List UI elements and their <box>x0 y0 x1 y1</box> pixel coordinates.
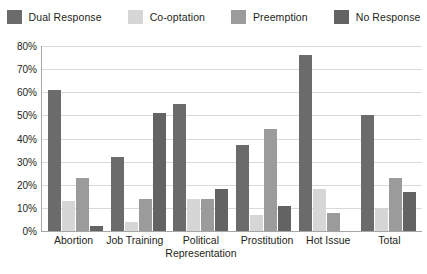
x-axis-category-label-line: Hot Issue <box>298 234 359 247</box>
legend-swatch-icon <box>128 10 143 24</box>
x-axis-category-label: Total <box>359 234 420 260</box>
y-axis-tick-label: 60% <box>17 87 37 98</box>
legend-swatch-icon <box>231 10 246 24</box>
x-axis-category-label-line: Job Training <box>104 234 165 247</box>
bar-group <box>232 46 295 231</box>
bar[interactable] <box>62 201 75 231</box>
bar-group <box>107 46 170 231</box>
bar[interactable] <box>90 226 103 231</box>
x-axis-category-label: PoliticalRepresentation <box>165 234 236 260</box>
bar[interactable] <box>48 90 61 231</box>
y-axis-tick-label: 0% <box>23 226 37 237</box>
x-axis-category-label: Abortion <box>43 234 104 260</box>
bar[interactable] <box>187 199 200 231</box>
chart-legend: Dual ResponseCo-optationPreemptionNo Res… <box>0 10 427 24</box>
bar[interactable] <box>153 113 166 231</box>
bar-group <box>357 46 420 231</box>
bar[interactable] <box>125 222 138 231</box>
bar[interactable] <box>215 189 228 231</box>
y-axis-tick-label: 30% <box>17 156 37 167</box>
bar[interactable] <box>361 115 374 231</box>
bar[interactable] <box>299 55 312 231</box>
legend-label: Preemption <box>253 11 308 23</box>
bar[interactable] <box>111 157 124 231</box>
y-axis-tick-label: 10% <box>17 202 37 213</box>
legend-label: Co-optation <box>150 11 205 23</box>
bar[interactable] <box>375 208 388 231</box>
x-axis-category-label-line: Total <box>359 234 420 247</box>
x-axis-category-label-line: Representation <box>165 247 236 260</box>
bar-chart: Dual ResponseCo-optationPreemptionNo Res… <box>0 0 427 274</box>
bar[interactable] <box>403 192 416 231</box>
bar[interactable] <box>139 199 152 231</box>
x-axis-category-label: Hot Issue <box>298 234 359 260</box>
y-axis-tick-label: 50% <box>17 110 37 121</box>
bar[interactable] <box>76 178 89 231</box>
y-axis-tick-label: 40% <box>17 133 37 144</box>
legend-label: Dual Response <box>29 11 102 23</box>
x-axis-category-label: Job Training <box>104 234 165 260</box>
bar-group <box>169 46 232 231</box>
x-axis-category-label-line: Abortion <box>43 234 104 247</box>
bar[interactable] <box>313 189 326 231</box>
x-axis-category-label-line: Political <box>165 234 236 247</box>
legend-item[interactable]: Co-optation <box>128 10 205 24</box>
bar[interactable] <box>236 145 249 231</box>
bar-group <box>295 46 358 231</box>
legend-item[interactable]: Preemption <box>231 10 308 24</box>
bar[interactable] <box>250 215 263 231</box>
bar[interactable] <box>327 213 340 232</box>
legend-swatch-icon <box>334 10 349 24</box>
legend-item[interactable]: Dual Response <box>7 10 102 24</box>
bar-groups <box>42 46 422 231</box>
legend-label: No Response <box>356 11 421 23</box>
x-axis-category-label: Prostitution <box>237 234 298 260</box>
legend-swatch-icon <box>7 10 22 24</box>
y-axis-tick-label: 70% <box>17 64 37 75</box>
y-axis-tick-label: 80% <box>17 41 37 52</box>
bar[interactable] <box>201 199 214 231</box>
bar[interactable] <box>389 178 402 231</box>
x-axis-category-labels: AbortionJob TrainingPoliticalRepresentat… <box>41 234 422 260</box>
bar[interactable] <box>278 206 291 231</box>
bar[interactable] <box>264 129 277 231</box>
y-axis-tick-label: 20% <box>17 179 37 190</box>
bar-group <box>44 46 107 231</box>
legend-item[interactable]: No Response <box>334 10 421 24</box>
plot-area: 0%10%20%30%40%50%60%70%80% <box>41 46 422 232</box>
bar[interactable] <box>173 104 186 231</box>
x-axis-category-label-line: Prostitution <box>237 234 298 247</box>
